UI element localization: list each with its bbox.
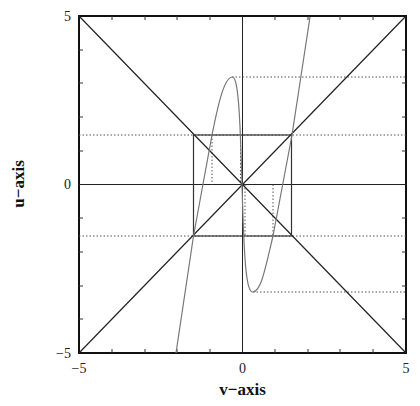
y-axis-label: u−axis (9, 160, 28, 208)
y-tick-label-mid: 0 (64, 177, 71, 192)
x-axis-label: v−axis (219, 380, 266, 399)
x-tick-label-left: −5 (72, 361, 87, 376)
x-tick-label-right: 5 (403, 361, 410, 376)
x-tick-label-mid: 0 (239, 361, 246, 376)
y-tick-label-bottom: −5 (56, 346, 71, 361)
phase-plot: 5 0 −5 −5 0 5 v−axis u−axis (0, 0, 420, 406)
y-tick-label-top: 5 (64, 9, 71, 24)
